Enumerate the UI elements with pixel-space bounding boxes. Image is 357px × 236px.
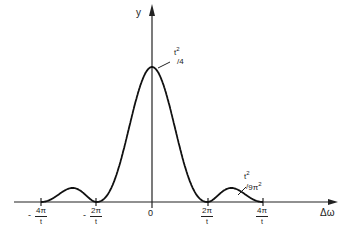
y-axis-arrow-icon [149, 4, 155, 16]
x-axis-label: Δω [320, 208, 335, 218]
tick-label-4pi-over-t: 4πt [256, 207, 268, 225]
tick-minus-sign: - [28, 210, 31, 220]
lobe-annotation-t2-over-9pi2: t2 /9π2 [244, 170, 262, 191]
tick-label-minus-4pi-over-t: 4πt [35, 207, 47, 225]
chart-canvas [0, 0, 357, 236]
y-axis-label: y [136, 8, 141, 18]
tick-label-zero: 0 [148, 209, 153, 218]
tick-minus-sign: - [83, 210, 86, 220]
peak-annotation-t2-over-4: t2 /4 [174, 46, 184, 66]
tick-label-minus-2pi-over-t: 2πt [90, 207, 102, 225]
x-axis-arrow-icon [328, 199, 338, 205]
peak-leader-line [158, 62, 170, 68]
tick-label-2pi-over-t: 2πt [201, 207, 213, 225]
